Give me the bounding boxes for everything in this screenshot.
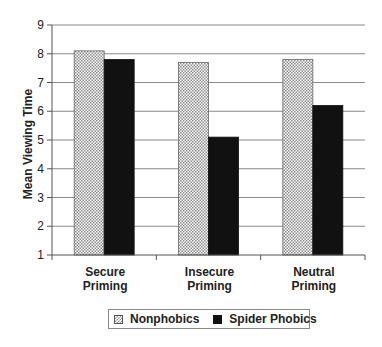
- y-tick-label: 1: [37, 248, 44, 262]
- x-category-label: Insecure: [185, 265, 235, 279]
- bar-spider-phobics: [104, 60, 134, 256]
- legend-item-spider-phobics: Spider Phobics: [213, 312, 316, 326]
- bar-nonphobics: [283, 60, 313, 256]
- legend-label: Spider Phobics: [229, 312, 316, 326]
- bars: [74, 51, 343, 255]
- y-tick-label: 6: [37, 104, 44, 118]
- x-category-label: Priming: [187, 279, 232, 293]
- x-category-label: Secure: [85, 265, 125, 279]
- x-category-label: Priming: [83, 279, 128, 293]
- legend-item-nonphobics: Nonphobics: [114, 312, 199, 326]
- bar-chart: 123456789 SecurePrimingInsecurePrimingNe…: [0, 0, 382, 347]
- y-tick-label: 9: [37, 18, 44, 32]
- bar-nonphobics: [179, 62, 209, 255]
- y-tick-label: 3: [37, 191, 44, 205]
- legend-label: Nonphobics: [130, 312, 199, 326]
- legend: Nonphobics Spider Phobics: [108, 309, 310, 329]
- bar-spider-phobics: [313, 106, 343, 256]
- bar-nonphobics: [74, 51, 104, 255]
- y-axis-ticks: 123456789: [37, 18, 52, 262]
- y-tick-label: 4: [37, 162, 44, 176]
- y-axis-title: Mean Viewing Time: [21, 89, 35, 200]
- y-tick-label: 5: [37, 133, 44, 147]
- hatch-swatch-icon: [114, 315, 123, 324]
- x-category-label: Neutral: [293, 265, 334, 279]
- solid-swatch-icon: [213, 315, 222, 324]
- y-tick-label: 8: [37, 47, 44, 61]
- y-tick-label: 2: [37, 219, 44, 233]
- x-category-label: Priming: [291, 279, 336, 293]
- bar-spider-phobics: [209, 137, 239, 255]
- x-axis-labels: SecurePrimingInsecurePrimingNeutralPrimi…: [83, 265, 336, 293]
- y-tick-label: 7: [37, 76, 44, 90]
